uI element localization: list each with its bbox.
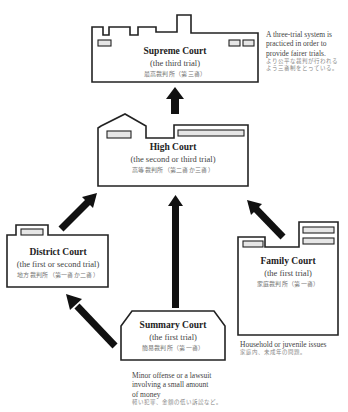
note-line: Minor offense or a lawsuit [132, 371, 242, 380]
note-line: of money [132, 390, 242, 399]
arrow-summary-to-district-icon [77, 306, 115, 346]
district-court-trial: (the first or second trial) [8, 259, 108, 270]
arrow-summary-to-high-icon [168, 195, 183, 308]
court-system-diagram: Supreme Court (the third trial) 最高裁判所（第三… [0, 0, 348, 412]
district-court-name: District Court [8, 247, 108, 259]
supreme-court-name: Supreme Court [110, 46, 240, 58]
supreme-court-trial: (the third trial) [110, 58, 240, 69]
note-line: Household or juvenile issues [240, 340, 348, 349]
district-court-label: District Court (the first or second tria… [8, 247, 108, 278]
supreme-court-jp: 最高裁判所（第三審） [110, 70, 240, 78]
arrow-district-to-high-icon [61, 200, 90, 229]
arrow-family-to-high-icon [255, 208, 283, 237]
district-court-jp: 地方裁判所（第一審か二審） [8, 271, 108, 279]
family-court-jp: 家庭裁判所（第一審） [240, 280, 336, 288]
note-line: involving a small amount [132, 380, 242, 389]
summary-court-note: Minor offense or a lawsuit involving a s… [132, 371, 242, 406]
note-line: provide fairer trials. [266, 49, 348, 58]
supreme-court-label: Supreme Court (the third trial) 最高裁判所（第三… [110, 46, 240, 77]
high-court-name: High Court [105, 142, 241, 154]
summary-court-trial: (the first trial) [124, 332, 222, 343]
high-court-label: High Court (the second or third trial) 高… [105, 142, 241, 173]
note-jp-line: より公平な裁判が行われる [266, 58, 348, 65]
family-court-note: Household or juvenile issues 家庭内、未成年の問題。 [240, 340, 348, 356]
family-court-trial: (the first trial) [240, 268, 336, 279]
note-line: A three-trial system is [266, 30, 348, 39]
three-trial-system-note: A three-trial system is practiced in ord… [266, 30, 348, 72]
summary-court-name: Summary Court [124, 320, 222, 332]
note-jp-line: 軽い犯罪、金額の低い訴訟など。 [132, 399, 242, 406]
high-court-trial: (the second or third trial) [105, 154, 241, 165]
note-jp-line: よう三審制をとっている。 [266, 65, 348, 72]
family-court-label: Family Court (the first trial) 家庭裁判所（第一審… [240, 256, 336, 287]
note-jp-line: 家庭内、未成年の問題。 [240, 349, 348, 356]
arrow-high-to-supreme-icon [166, 87, 184, 114]
family-court-name: Family Court [240, 256, 336, 268]
note-line: practiced in order to [266, 39, 348, 48]
high-court-jp: 高等裁判所（第二審か三審） [105, 166, 241, 174]
summary-court-jp: 簡易裁判所（第一審） [124, 344, 222, 352]
summary-court-label: Summary Court (the first trial) 簡易裁判所（第一… [124, 320, 222, 351]
